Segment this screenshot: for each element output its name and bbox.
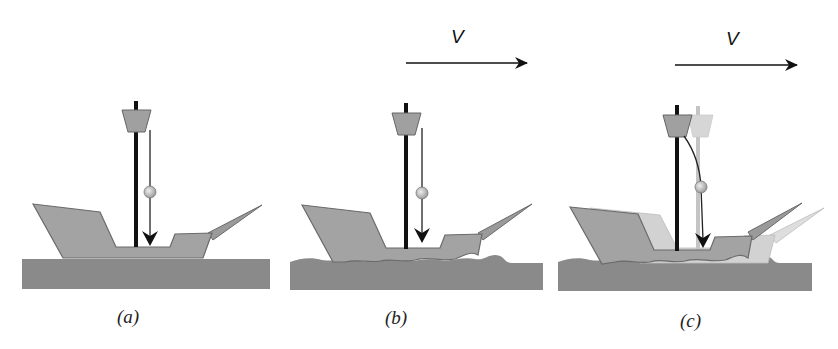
pendulum-bob <box>144 186 156 198</box>
boat-hull <box>302 205 482 262</box>
panel-a <box>22 101 270 289</box>
pendulum-bob <box>416 187 428 199</box>
panel-label-c: (c) <box>680 310 701 332</box>
ghost-bowsprit <box>770 208 824 243</box>
boat-hull <box>33 204 212 258</box>
panel-b <box>290 63 543 290</box>
pendulum-bob <box>695 181 707 193</box>
panel-label-a: (a) <box>117 306 139 328</box>
velocity-label-b: V <box>451 26 464 48</box>
bowsprit <box>478 204 532 240</box>
panel-label-b: (b) <box>385 307 407 329</box>
boat-pendulum-diagram <box>0 0 838 349</box>
pendulum-pivot-trapezoid <box>392 113 421 135</box>
velocity-label-c: V <box>726 28 739 50</box>
ghost-pivot-trapezoid <box>688 115 713 137</box>
pendulum-pivot-trapezoid <box>663 115 692 137</box>
ground-flat <box>22 259 270 289</box>
bowsprit <box>208 205 262 240</box>
panel-c <box>558 65 824 291</box>
pendulum-pivot-trapezoid <box>122 110 151 132</box>
